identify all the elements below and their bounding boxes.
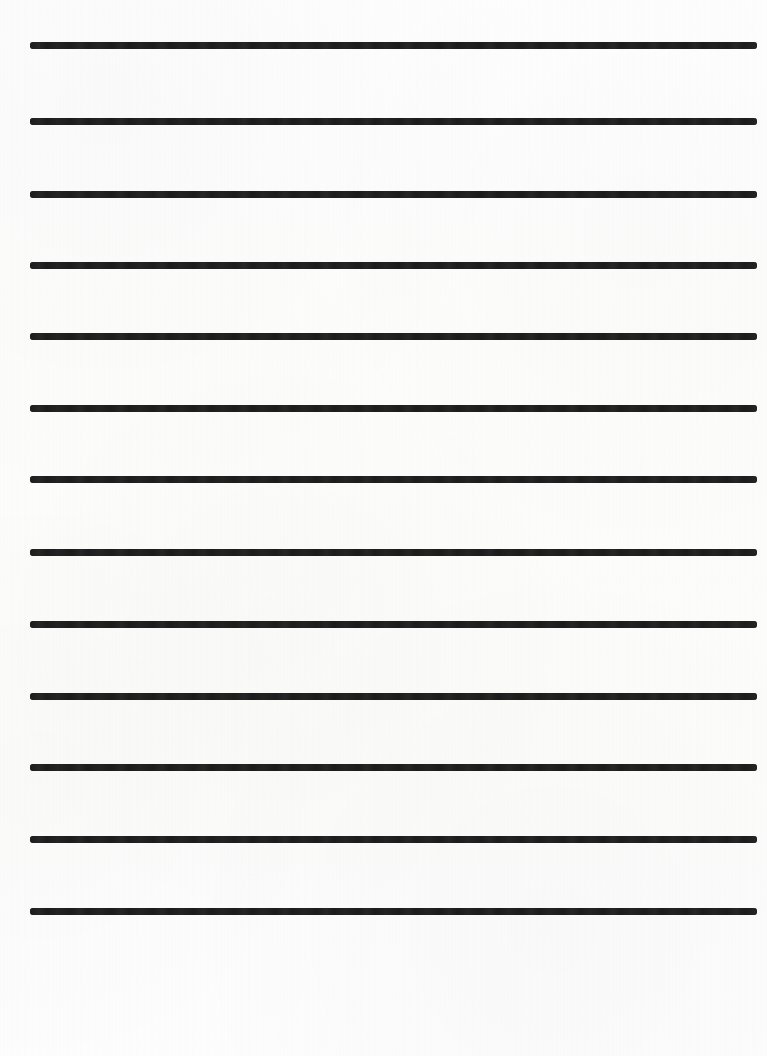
writing-line-9 bbox=[30, 621, 757, 628]
writing-line-11 bbox=[30, 764, 757, 771]
writing-line-2 bbox=[30, 118, 757, 125]
writing-line-8 bbox=[30, 549, 757, 556]
writing-line-5 bbox=[30, 333, 757, 340]
writing-line-6 bbox=[30, 405, 757, 412]
writing-line-1 bbox=[30, 42, 757, 49]
writing-line-12 bbox=[30, 836, 757, 843]
writing-line-4 bbox=[30, 262, 757, 269]
lined-paper-sheet bbox=[0, 0, 767, 1056]
writing-line-3 bbox=[30, 191, 757, 198]
writing-line-7 bbox=[30, 476, 757, 483]
paper-grain-texture bbox=[0, 0, 767, 1056]
writing-line-10 bbox=[30, 693, 757, 700]
writing-line-13 bbox=[30, 908, 757, 915]
